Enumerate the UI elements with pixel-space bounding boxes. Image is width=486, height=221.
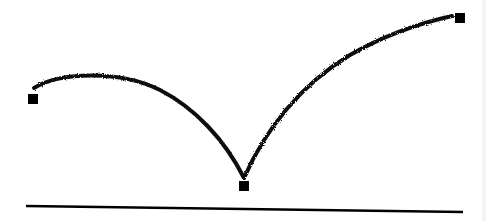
left-node-square	[28, 94, 38, 104]
edge-strip	[482, 0, 486, 221]
left-arc	[34, 76, 244, 179]
baseline	[26, 206, 463, 212]
bottom-node-square	[239, 181, 249, 191]
right-arc	[244, 16, 452, 178]
diagram-canvas	[0, 0, 486, 221]
right-node-square	[455, 13, 465, 23]
